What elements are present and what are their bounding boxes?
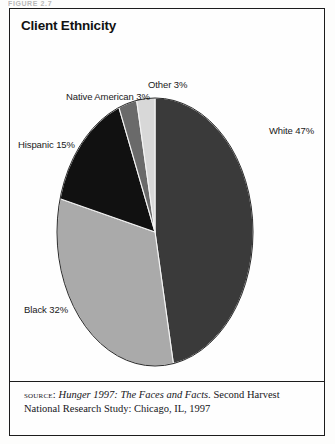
pie-label-black: Black 32% — [24, 304, 68, 315]
pie-chart: Other 3% Native American 3% White 47% Hi… — [0, 0, 335, 380]
pie-slice-group — [57, 98, 253, 366]
pie-label-other: Other 3% — [148, 79, 187, 90]
source-title: Hunger 1997: The Faces and Facts. — [59, 389, 211, 400]
pie-label-native-american: Native American 3% — [66, 91, 150, 102]
source-citation: source: Hunger 1997: The Faces and Facts… — [24, 388, 312, 416]
source-label: source: — [24, 389, 56, 400]
source-divider — [10, 381, 324, 382]
pie-chart-svg — [55, 96, 255, 368]
pie-slice-white — [155, 98, 253, 364]
figure-container: FIGURE 2.7 Client Ethnicity Other 3% Nat… — [0, 0, 335, 444]
pie-label-hispanic: Hispanic 15% — [18, 139, 75, 150]
pie-label-white: White 47% — [269, 125, 314, 136]
